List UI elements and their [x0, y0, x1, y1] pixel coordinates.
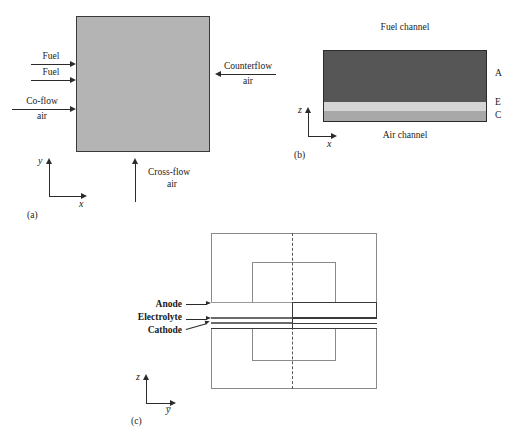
fuel-top-label: Fuel: [27, 51, 75, 62]
figure-canvas: Fuel Fuel Co-flow air Counterflow air Cr…: [0, 0, 532, 438]
panel-b-fuel-channel-label: Fuel channel: [345, 22, 465, 33]
panel-c-right-anode-block: [292, 302, 377, 318]
fuel-top-arrow-head: [70, 61, 76, 67]
panel-a-y-axis-head: [46, 158, 52, 164]
panel-a-caption: (a): [27, 210, 38, 220]
panel-c-right-lower-block: [292, 318, 377, 329]
panel-a-y-axis-label: y: [38, 155, 42, 166]
fuel-top-arrow-shaft: [31, 64, 71, 65]
panel-c-anode-label: Anode: [105, 299, 182, 310]
co-flow-arrow-shaft: [12, 109, 71, 110]
panel-c-anode-leader-head: [206, 301, 211, 305]
panel-b-x-axis-head: [331, 133, 337, 139]
counterflow-label: Counterflow: [212, 61, 284, 72]
fuel-bottom-label: Fuel: [27, 67, 75, 78]
panel-b-z-axis-head: [305, 107, 311, 113]
cross-flow-arrow-shaft: [135, 164, 136, 202]
counterflow-label-2: air: [212, 76, 284, 87]
panel-b-electrolyte-layer: [324, 102, 486, 111]
cross-flow-arrow-head: [132, 158, 138, 164]
panel-b-cathode-layer: [324, 111, 486, 121]
panel-b-z-axis-label: z: [298, 104, 302, 115]
panel-a-x-axis-line: [49, 196, 82, 197]
panel-c-z-axis-head: [143, 374, 149, 380]
counterflow-arrow-shaft: [221, 74, 276, 75]
fuel-bottom-arrow-head: [70, 77, 76, 83]
cross-flow-label: Cross-flow: [148, 167, 190, 178]
panel-b-z-axis-line: [308, 113, 309, 137]
panel-b-cathode-key: C: [495, 110, 501, 121]
panel-b-air-channel-label: Air channel: [345, 130, 465, 141]
panel-c-y-axis-label: y̅: [166, 404, 170, 415]
panel-b-x-axis-line: [308, 136, 332, 137]
fuel-bottom-arrow-shaft: [31, 80, 71, 81]
panel-c-cathode-leader: [186, 323, 207, 330]
panel-a-x-axis-label: x: [79, 198, 83, 209]
panel-c-cathode-leader-head: [205, 319, 211, 324]
panel-c-cathode-label: Cathode: [105, 325, 182, 336]
co-flow-label: Co-flow: [11, 96, 73, 107]
panel-b-electrolyte-key: E: [495, 97, 501, 108]
panel-b-cell-rect: [323, 50, 487, 122]
panel-c-z-axis-label: z: [136, 371, 140, 382]
panel-b-anode-key: A: [495, 68, 502, 79]
panel-c-anode-leader: [186, 304, 207, 305]
panel-b-anode-layer: [324, 51, 486, 102]
panel-c-y-axis-head: [170, 400, 176, 406]
panel-a-cell-square: [76, 16, 210, 152]
panel-a-y-axis-line: [49, 164, 50, 197]
co-flow-label-2: air: [11, 111, 73, 122]
cross-flow-label-2: air: [148, 179, 196, 190]
panel-c-electrolyte-label: Electrolyte: [96, 312, 182, 323]
panel-c-z-axis-line: [146, 380, 147, 404]
panel-c-caption: (c): [131, 416, 142, 426]
panel-c-right-mid-line: [292, 323, 377, 324]
panel-b-x-axis-label: x: [327, 138, 331, 149]
panel-b-caption: (b): [294, 150, 305, 160]
